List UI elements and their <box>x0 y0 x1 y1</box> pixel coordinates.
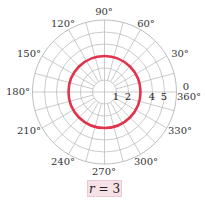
angle-label-300: 300° <box>134 157 158 167</box>
angle-label-270: 270° <box>92 167 116 177</box>
angle-label-240: 240° <box>51 157 75 167</box>
radial-label-1: 1 <box>113 92 119 102</box>
radial-label-5: 5 <box>161 92 167 102</box>
equation-label: r = 3 <box>87 180 122 197</box>
radial-label-4: 4 <box>149 92 155 102</box>
angle-label-360: 360° <box>177 92 201 102</box>
angle-label-210: 210° <box>17 126 41 136</box>
radial-label-2: 2 <box>125 92 131 102</box>
angle-label-60: 60° <box>137 19 155 29</box>
angle-label-180: 180° <box>6 87 30 97</box>
angle-label-150: 150° <box>17 49 41 59</box>
equation-value: = 3 <box>95 182 120 196</box>
angle-label-330: 330° <box>168 126 192 136</box>
angle-label-120: 120° <box>51 19 75 29</box>
angle-label-30: 30° <box>171 49 189 59</box>
angle-label-90: 90° <box>95 7 113 17</box>
